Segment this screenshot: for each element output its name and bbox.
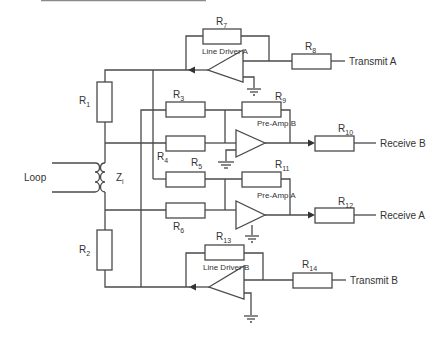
resistor-r4 xyxy=(166,136,205,151)
ground-icon xyxy=(247,89,261,95)
label-line-driver-b: Line Driver B xyxy=(203,263,249,272)
ground-icon xyxy=(218,162,234,168)
label-pre-amp-a: Pre-Amp A xyxy=(257,191,296,200)
label-transmit-a: Transmit A xyxy=(349,56,397,67)
transformer-secondary-icon xyxy=(101,163,106,192)
label-transmit-b: Transmit B xyxy=(350,275,398,286)
label-r8: R8 xyxy=(305,41,316,54)
label-receive-b: Receive B xyxy=(380,138,426,149)
resistor-r5 xyxy=(166,172,205,187)
resistor-r1 xyxy=(97,82,112,122)
label-r10: R10 xyxy=(338,123,353,136)
hybrid-circuit-diagram: R1 R2 R3 R4 R5 R6 R7 R8 R9 R10 R11 R12 R… xyxy=(0,0,448,339)
line-driver-a xyxy=(186,29,345,95)
label-r2: R2 xyxy=(79,244,90,257)
label-pre-amp-b: Pre-Amp B xyxy=(257,119,296,128)
label-receive-a: Receive A xyxy=(380,210,425,221)
resistor-r3 xyxy=(166,102,205,117)
line-driver-b xyxy=(186,245,346,322)
label-loop: Loop xyxy=(24,172,47,183)
resistor-r6 xyxy=(166,203,205,218)
label-r13: R13 xyxy=(216,231,231,244)
label-r6: R6 xyxy=(173,221,184,234)
resistor-r2 xyxy=(97,230,112,270)
label-zi: Zi xyxy=(116,172,124,185)
label-r11: R11 xyxy=(275,159,290,172)
ground-icon xyxy=(244,316,258,322)
label-r3: R3 xyxy=(173,89,184,102)
pre-amp-a xyxy=(205,172,364,242)
resistor-r12 xyxy=(315,208,354,223)
label-r4: R4 xyxy=(157,151,168,164)
resistor-r8 xyxy=(292,54,331,69)
resistor-r9 xyxy=(242,102,281,117)
pre-amp-b-triangle xyxy=(236,130,265,157)
resistor-r7 xyxy=(203,29,241,44)
transformer-primary-icon xyxy=(95,163,100,192)
resistor-r14 xyxy=(293,273,332,288)
label-r7: R7 xyxy=(216,16,227,29)
ground-icon xyxy=(245,236,259,242)
label-r14: R14 xyxy=(302,259,317,272)
pre-amp-b xyxy=(205,102,364,168)
resistor-r11 xyxy=(242,172,281,187)
resistor-r10 xyxy=(315,136,354,151)
label-r12: R12 xyxy=(338,196,353,209)
label-r1: R1 xyxy=(79,95,90,108)
label-r5: R5 xyxy=(191,157,202,170)
resistor-r13 xyxy=(205,245,244,260)
label-line-driver-a: Line Driver A xyxy=(202,47,248,56)
pre-amp-a-triangle xyxy=(236,201,265,229)
